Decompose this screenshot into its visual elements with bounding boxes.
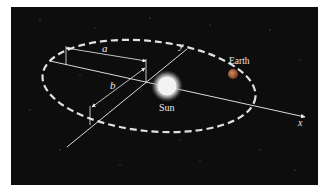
label-b: b — [110, 79, 116, 91]
orbit-ellipse — [38, 30, 260, 142]
b-dimension-arrow — [92, 68, 145, 107]
label-a: a — [102, 42, 108, 54]
label-sun: Sun — [159, 102, 175, 113]
label-x: x — [297, 117, 303, 128]
label-y: y — [178, 40, 184, 51]
orbit-diagram: a b y x Sun Earth — [0, 0, 325, 192]
earth — [228, 69, 238, 79]
label-earth: Earth — [229, 56, 250, 66]
sun — [158, 77, 177, 96]
